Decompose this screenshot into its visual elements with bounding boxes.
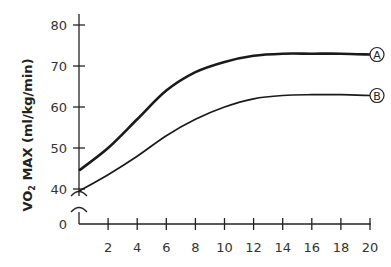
x-tick-label: 20 (362, 240, 379, 255)
y-tick-label: 80 (50, 18, 67, 33)
x-tick-labels: 2468101214161820 (104, 240, 378, 255)
series-markers: AB (370, 48, 384, 103)
curves (79, 54, 370, 192)
y-tick-label: 50 (50, 141, 67, 156)
x-tick-label: 8 (191, 240, 199, 255)
x-tick-label: 6 (162, 240, 170, 255)
y-tick-label: 70 (50, 59, 67, 74)
x-tick-label: 4 (133, 240, 141, 255)
x-tick-label: 14 (274, 240, 291, 255)
x-tick-label: 18 (333, 240, 350, 255)
curve-b (79, 95, 370, 191)
x-tick-label: 10 (216, 240, 233, 255)
chart-svg: VO2 MAX (ml/kg/min) 04050607080 24681012… (0, 0, 391, 267)
x-tick-label: 12 (245, 240, 262, 255)
x-tick-label: 16 (304, 240, 321, 255)
axes (71, 14, 371, 230)
y-tick-label: 0 (59, 217, 67, 232)
marker-b-label: B (373, 90, 381, 103)
x-tick-label: 2 (104, 240, 112, 255)
y-tick-label: 40 (50, 182, 67, 197)
curve-a (79, 54, 370, 171)
y-tick-label: 60 (50, 100, 67, 115)
marker-a-label: A (373, 49, 381, 62)
y-axis-label: VO2 MAX (ml/kg/min) (20, 58, 37, 211)
y-tick-labels: 04050607080 (50, 18, 67, 232)
